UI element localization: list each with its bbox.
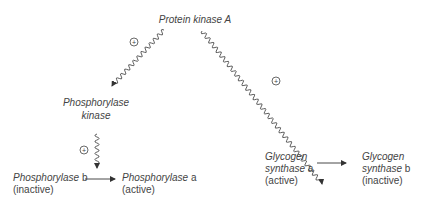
glycogen-synthase-a-name: synthase [265, 163, 305, 174]
phosphorylase-b-state: (inactive) [13, 184, 54, 196]
svg-text:+: + [274, 78, 278, 85]
glycogen-synthase-b-form: b [405, 163, 411, 174]
plus-circle-icon: + [80, 146, 88, 154]
glycogen-synthase-a-state: (active) [265, 175, 298, 187]
phosphorylase-b-form: b [82, 172, 88, 183]
protein-kinase-a-label: Protein kinase A [159, 14, 231, 26]
glycogen-synthase-b-state: (inactive) [362, 175, 403, 187]
svg-text:+: + [132, 39, 136, 46]
glycogen-synthase-a-line1: Glycogen [265, 151, 307, 163]
phosphorylase-a-label: Phosphorylase a [122, 172, 197, 184]
phosphorylase-a-state: (active) [122, 184, 155, 196]
phosphorylase-b-label: Phosphorylase b [13, 172, 88, 184]
wavy-arrow-phosphorylase-kinase-to-reaction [95, 134, 99, 168]
glycogen-synthase-a-form: a [308, 163, 314, 174]
svg-text:+: + [82, 147, 86, 154]
phosphorylase-a-form: a [191, 172, 197, 183]
phosphorylase-kinase-label-line1: Phosphorylase [63, 97, 129, 109]
wavy-arrow-pka-to-phosphorylase-kinase [112, 29, 164, 86]
plus-circle-icon: + [272, 77, 280, 85]
plus-circle-icon: + [130, 38, 138, 46]
glycogen-synthase-a-label: synthase a [265, 163, 313, 175]
phosphorylase-kinase-label-line2: kinase [82, 110, 111, 122]
glycogen-synthase-b-line1: Glycogen [362, 151, 404, 163]
glycogen-synthase-b-name: synthase [362, 163, 402, 174]
phosphorylase-a-name: Phosphorylase [122, 172, 188, 183]
glycogen-synthase-b-label: synthase b [362, 163, 410, 175]
phosphorylase-b-name: Phosphorylase [13, 172, 79, 183]
